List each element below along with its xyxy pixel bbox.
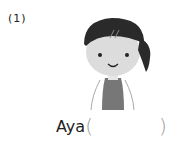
answer-line: Aya ( ) xyxy=(56,114,167,138)
shirt xyxy=(102,78,124,110)
answer-blank[interactable] xyxy=(93,117,159,135)
ponytail xyxy=(138,38,150,72)
open-paren: ( xyxy=(85,114,93,138)
right-eye xyxy=(125,53,129,57)
left-eye xyxy=(98,53,102,57)
close-paren: ) xyxy=(159,114,167,138)
left-arm-line xyxy=(91,80,100,110)
right-arm-line xyxy=(125,80,134,110)
name-label: Aya xyxy=(56,117,85,136)
